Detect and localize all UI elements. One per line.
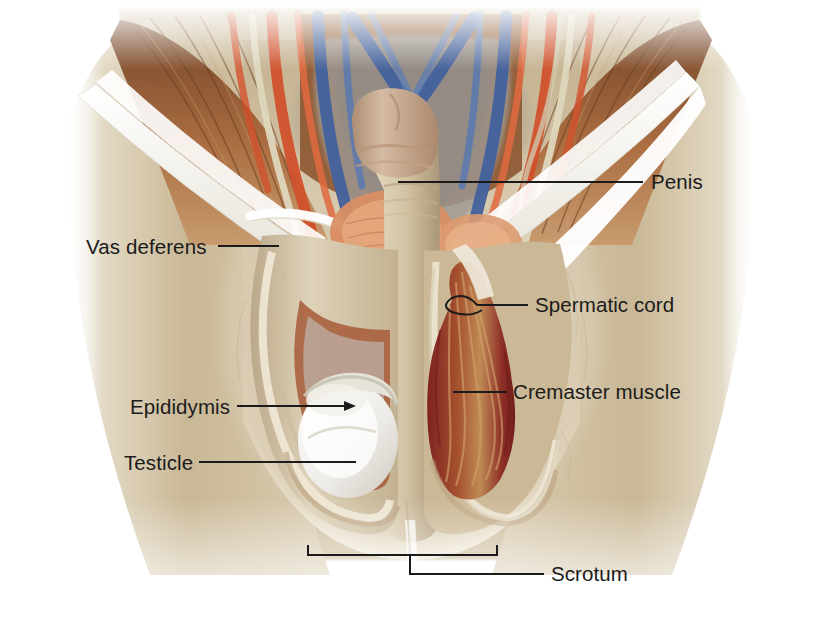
arrowhead-epididymis <box>344 401 356 411</box>
label-scrotum: Scrotum <box>551 564 628 585</box>
label-spermatic-cord: Spermatic cord <box>535 295 674 316</box>
hook-spermatic-cord <box>446 296 482 314</box>
label-leader-lines <box>0 0 820 626</box>
label-epididymis: Epididymis <box>130 397 230 418</box>
illustration-canvas: Penis Vas deferens Spermatic cord Cremas… <box>0 0 820 626</box>
label-vas-deferens: Vas deferens <box>86 237 206 258</box>
bracket-scrotum <box>308 545 497 555</box>
label-penis: Penis <box>651 172 703 193</box>
leader-scrotum <box>410 555 544 574</box>
label-testicle: Testicle <box>124 453 193 474</box>
label-cremaster-muscle: Cremaster muscle <box>513 382 681 403</box>
